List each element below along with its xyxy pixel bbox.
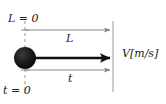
origin-length-label: L = 0	[8, 13, 39, 24]
origin-time-label: t = 0	[3, 85, 31, 96]
moving-ball	[14, 47, 36, 69]
time-label: t	[68, 73, 72, 84]
motion-diagram: L = 0 t = 0 L t V[m/s]	[0, 0, 166, 104]
distance-label: L	[66, 33, 73, 44]
velocity-label: V[m/s]	[122, 48, 158, 59]
